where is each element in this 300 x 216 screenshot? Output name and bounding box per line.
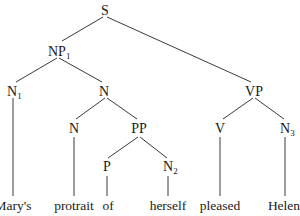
word-helen: Helen [268,198,300,213]
tree-words: Mary's protrait of herself pleased Helen [0,198,300,213]
node-p: P [103,159,111,174]
tree-nodes: S NP1 N1 N VP N PP V N3 P N2 [7,3,295,176]
word-pleased: pleased [200,198,241,213]
word-protrait: protrait [54,198,94,213]
node-v: V [215,121,225,136]
edge-np1-n1 [16,58,57,82]
edge-s-vp [107,17,251,82]
node-n-mid: N [99,84,109,99]
word-of: of [102,198,114,213]
node-s: S [101,3,109,18]
edge-vp-n3 [255,98,284,119]
node-vp: VP [245,84,263,99]
edge-np1-n [59,58,102,82]
node-pp: PP [131,121,147,136]
edge-s-np1 [62,17,103,41]
edge-pp-p [108,137,138,158]
node-n2: N2 [163,159,178,176]
edge-n-nhead [76,98,105,119]
node-n1: N1 [7,84,22,101]
node-n3: N3 [280,121,295,138]
edge-n-pp [107,98,137,119]
syntax-tree: S NP1 N1 N VP N PP V N3 P N2 Mary's prot… [0,0,300,216]
word-herself: herself [150,198,187,213]
node-n-head: N [69,121,79,136]
edge-pp-n2 [140,137,167,158]
edge-vp-v [223,98,253,119]
word-marys: Mary's [0,198,31,213]
node-np1: NP1 [48,44,70,61]
